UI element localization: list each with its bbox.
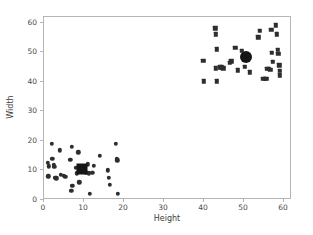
data-point-cluster-1 xyxy=(107,175,111,179)
data-point-cluster-1 xyxy=(115,191,119,195)
y-tick-label: 20 xyxy=(27,135,37,144)
data-point-cluster-1 xyxy=(69,188,73,192)
data-point-cluster-2 xyxy=(215,79,219,83)
data-point-cluster-1 xyxy=(52,165,56,169)
y-tick-mark xyxy=(40,110,43,111)
scatter-plot-figure: 0102030405060 0102030405060 Height Width xyxy=(0,0,313,235)
data-point-cluster-2 xyxy=(264,77,268,81)
x-tick-label: 50 xyxy=(238,203,248,212)
data-point-cluster-2 xyxy=(274,23,278,27)
data-point-cluster-2 xyxy=(235,68,239,72)
y-tick-label: 0 xyxy=(32,195,37,204)
data-point-cluster-1 xyxy=(98,154,102,158)
y-axis-label: Width xyxy=(6,95,15,118)
data-point-cluster-1 xyxy=(77,180,81,184)
y-tick-mark xyxy=(40,169,43,170)
data-point-cluster-1 xyxy=(47,164,51,168)
plot-data-area xyxy=(44,17,290,198)
data-point-cluster-1 xyxy=(70,183,74,187)
data-point-cluster-2 xyxy=(277,63,281,67)
data-point-cluster-2 xyxy=(214,32,218,36)
data-point-cluster-1 xyxy=(46,174,50,178)
centroid-cluster-1 xyxy=(77,164,88,175)
data-point-cluster-2 xyxy=(201,79,205,83)
data-point-cluster-2 xyxy=(269,28,273,32)
data-point-cluster-1 xyxy=(87,191,91,195)
data-point-cluster-1 xyxy=(54,176,58,180)
data-point-cluster-2 xyxy=(247,70,251,74)
data-point-cluster-1 xyxy=(107,182,111,186)
data-point-cluster-1 xyxy=(106,168,110,172)
data-point-cluster-2 xyxy=(278,73,282,77)
x-tick-mark xyxy=(243,199,244,202)
x-tick-mark xyxy=(203,199,204,202)
x-tick-label: 10 xyxy=(78,203,88,212)
y-tick-mark xyxy=(40,81,43,82)
y-tick-mark xyxy=(40,22,43,23)
x-tick-mark xyxy=(83,199,84,202)
data-point-cluster-2 xyxy=(243,64,247,68)
x-tick-label: 30 xyxy=(158,203,168,212)
x-tick-mark xyxy=(43,199,44,202)
y-tick-mark xyxy=(40,199,43,200)
data-point-cluster-2 xyxy=(258,28,262,32)
data-point-cluster-1 xyxy=(90,171,94,175)
data-point-cluster-1 xyxy=(70,145,74,149)
data-point-cluster-1 xyxy=(50,156,54,160)
x-axis-label: Height xyxy=(43,214,291,223)
x-tick-mark xyxy=(123,199,124,202)
data-point-cluster-1 xyxy=(91,164,95,168)
data-point-cluster-1 xyxy=(63,175,67,179)
y-tick-label: 50 xyxy=(27,47,37,56)
data-point-cluster-2 xyxy=(229,59,233,63)
data-point-cluster-1 xyxy=(76,150,80,154)
data-point-cluster-2 xyxy=(270,51,274,55)
y-tick-label: 10 xyxy=(27,165,37,174)
plot-axes-frame xyxy=(43,16,291,199)
data-point-cluster-2 xyxy=(276,51,280,55)
x-tick-mark xyxy=(163,199,164,202)
data-point-cluster-2 xyxy=(201,58,205,62)
data-point-cluster-1 xyxy=(50,141,54,145)
y-tick-label: 30 xyxy=(27,106,37,115)
data-point-cluster-2 xyxy=(271,60,275,64)
x-tick-label: 60 xyxy=(278,203,288,212)
data-point-cluster-2 xyxy=(268,67,272,71)
x-tick-mark xyxy=(283,199,284,202)
data-point-cluster-2 xyxy=(275,32,279,36)
data-point-cluster-2 xyxy=(213,26,217,30)
data-point-cluster-1 xyxy=(58,148,62,152)
x-tick-label: 20 xyxy=(118,203,128,212)
y-tick-label: 60 xyxy=(27,17,37,26)
data-point-cluster-1 xyxy=(114,141,118,145)
y-tick-label: 40 xyxy=(27,76,37,85)
y-tick-mark xyxy=(40,51,43,52)
data-point-cluster-2 xyxy=(256,35,260,39)
data-point-cluster-2 xyxy=(221,66,225,70)
data-point-cluster-2 xyxy=(233,45,237,49)
x-tick-label: 40 xyxy=(198,203,208,212)
data-point-cluster-1 xyxy=(115,158,119,162)
x-tick-label: 0 xyxy=(41,203,46,212)
y-tick-mark xyxy=(40,140,43,141)
data-point-cluster-1 xyxy=(68,158,72,162)
data-point-cluster-2 xyxy=(215,47,219,51)
centroid-cluster-2 xyxy=(240,51,252,63)
